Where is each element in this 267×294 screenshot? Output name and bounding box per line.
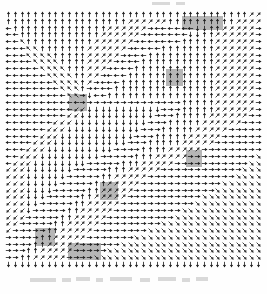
speckle-mark <box>176 2 185 5</box>
speckle-mark <box>30 278 56 282</box>
speckle-mark <box>140 278 150 282</box>
arrow-grid <box>0 0 267 294</box>
speckle-mark <box>182 278 190 282</box>
speckle-mark <box>196 277 208 281</box>
speckle-mark <box>96 278 103 282</box>
speckle-mark <box>62 278 71 282</box>
speckle-mark <box>110 277 132 281</box>
arrow-down-icon <box>255 261 262 268</box>
speckle-mark <box>76 277 90 281</box>
speckle-mark <box>158 277 176 281</box>
vector-field-figure <box>0 0 267 294</box>
speckle-mark <box>152 2 170 5</box>
